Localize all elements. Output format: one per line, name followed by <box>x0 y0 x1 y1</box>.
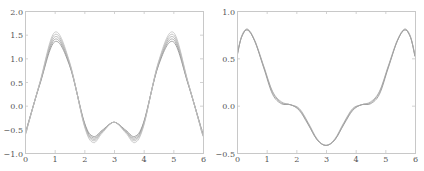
x-tick-label: 1 <box>265 155 270 164</box>
y-tick-label: 1.0 <box>222 8 235 17</box>
x-tick-label: 2 <box>294 155 299 164</box>
y-tick-label: 0.5 <box>222 55 235 64</box>
series-line-curve-1 <box>237 30 415 146</box>
series-line-curve-3 <box>237 29 415 146</box>
right-plot: 0123456−0.50.00.51.0 <box>216 8 418 165</box>
x-tick-label: 4 <box>142 155 147 164</box>
y-tick-label: 1.0 <box>10 55 23 64</box>
y-tick-label: −0.5 <box>216 150 235 159</box>
x-tick-label: 0 <box>235 155 240 164</box>
y-tick-label: 1.5 <box>10 31 23 40</box>
y-tick-label: 0.5 <box>10 79 23 88</box>
x-tick-label: 5 <box>171 155 176 164</box>
x-tick-label: 6 <box>413 155 418 164</box>
x-tick-label: 3 <box>112 155 117 164</box>
series-line-curve-2 <box>25 39 203 138</box>
y-tick-label: 2.0 <box>10 8 23 17</box>
x-tick-label: 2 <box>82 155 87 164</box>
figure: 0123456−1.0−0.50.00.51.01.52.0 0123456−0… <box>0 0 424 171</box>
x-tick-label: 0 <box>23 155 28 164</box>
series-line-curve-5 <box>25 32 203 143</box>
series-line-curve-2 <box>237 30 415 146</box>
y-tick-label: −1.0 <box>4 150 23 159</box>
x-tick-label: 4 <box>354 155 359 164</box>
left-plot: 0123456−1.0−0.50.00.51.01.52.0 <box>4 8 206 165</box>
plot-lines <box>25 32 203 143</box>
axes-frame <box>238 12 416 154</box>
x-tick-label: 1 <box>53 155 58 164</box>
x-tick-label: 3 <box>324 155 329 164</box>
x-tick-label: 6 <box>201 155 206 164</box>
y-tick-label: 0.0 <box>10 102 23 111</box>
axes-frame <box>26 12 204 154</box>
series-line-curve-3 <box>25 37 203 140</box>
y-tick-label: −0.5 <box>4 126 23 135</box>
y-tick-label: 0.0 <box>222 102 235 111</box>
x-tick-label: 5 <box>383 155 388 164</box>
series-line-curve-4 <box>25 34 203 141</box>
plot-lines <box>237 29 415 146</box>
